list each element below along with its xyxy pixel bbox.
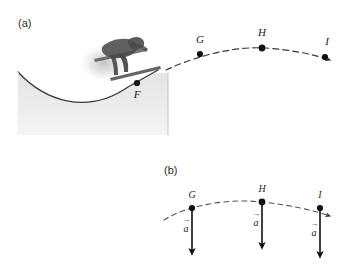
- point-g-label-b: G: [188, 189, 195, 200]
- point-g-dot-b: [189, 205, 195, 211]
- vector-g-label: a: [184, 223, 189, 234]
- vector-h-label: a: [254, 217, 259, 228]
- physics-figure: (a) F: [0, 0, 359, 270]
- panel-b: (b) G → a H → a I → a: [164, 164, 330, 256]
- point-g-dot: [197, 51, 203, 57]
- vector-i-label: a: [312, 227, 317, 238]
- point-h-label-b: H: [257, 183, 266, 194]
- figure-root: (a) F: [0, 0, 359, 270]
- point-f-label: F: [133, 88, 141, 100]
- panel-a: (a) F: [18, 17, 330, 135]
- point-h-dot-b: [259, 199, 266, 206]
- point-f-dot: [134, 80, 140, 86]
- panel-a-label: (a): [18, 17, 31, 29]
- panel-b-label: (b): [164, 164, 177, 176]
- point-h-label: H: [257, 26, 267, 38]
- point-i-dot: [322, 54, 328, 60]
- projectile-trajectory-a: [166, 48, 330, 70]
- point-i-dot-b: [317, 205, 323, 211]
- ramp-fill: [18, 72, 168, 135]
- point-h-dot: [259, 45, 266, 52]
- point-i-label: I: [324, 35, 330, 47]
- point-g-label: G: [196, 33, 204, 45]
- point-i-label-b: I: [317, 189, 322, 200]
